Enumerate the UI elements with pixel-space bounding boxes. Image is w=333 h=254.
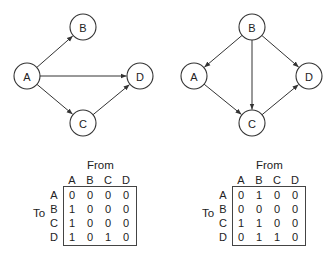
matrix-cell: 0 xyxy=(252,202,266,216)
column-label-a: A xyxy=(234,173,248,187)
matrix-cell: 0 xyxy=(270,188,284,202)
matrix-cell: 1 xyxy=(252,216,266,230)
row-label-a: A xyxy=(216,188,230,202)
matrix-cell: 0 xyxy=(288,230,302,244)
matrix-cell: 0 xyxy=(288,188,302,202)
matrix-cell: 0 xyxy=(270,202,284,216)
matrix-cell: 0 xyxy=(270,216,284,230)
matrix-cell: 0 xyxy=(234,202,248,216)
matrix-cell: 0 xyxy=(288,202,302,216)
from-axis-label: From xyxy=(256,159,283,171)
matrix-cell: 0 xyxy=(234,230,248,244)
column-label-b: B xyxy=(252,173,266,187)
to-axis-label: To xyxy=(202,207,214,219)
matrix-cell: 1 xyxy=(234,216,248,230)
matrix-cell: 1 xyxy=(252,188,266,202)
column-label-c: C xyxy=(270,173,284,187)
row-label-d: D xyxy=(216,230,230,244)
row-label-b: B xyxy=(216,202,230,216)
matrix-cell: 0 xyxy=(288,216,302,230)
matrix-cell: 1 xyxy=(252,230,266,244)
column-label-d: D xyxy=(288,173,302,187)
matrix-cell: 1 xyxy=(270,230,284,244)
row-label-c: C xyxy=(216,216,230,230)
matrix-cell: 0 xyxy=(234,188,248,202)
right-adjacency-matrix: From A B C D To A B C D 0100000011000110 xyxy=(0,0,333,254)
